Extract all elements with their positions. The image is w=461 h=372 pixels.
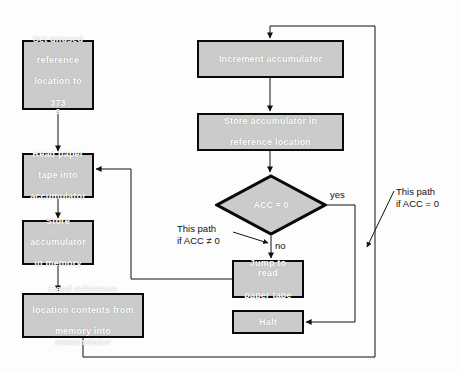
node-increment-accumulator[interactable]: Increment accumulator <box>197 40 344 78</box>
node-set-reference-text: Set unusedreferencelocation to3738 <box>27 34 90 116</box>
node-jump-text: Jump to readpaper tape <box>234 258 302 300</box>
node-store-memory-text: Storeaccumulatorin memory <box>24 216 92 269</box>
node-read-paper-tape-text: Read papertape intoaccumulator <box>24 149 92 202</box>
node-halt-text: Halt <box>256 317 280 328</box>
leader-equal <box>367 191 394 247</box>
node-store-accumulator-reference[interactable]: Store accumulator inreference location <box>197 113 344 151</box>
annotation-path-if-acc-equal-zero: This path if ACC = 0 <box>396 186 439 210</box>
node-store-reference-text: Store accumulator inreference location <box>218 116 324 148</box>
decision-label: ACC = 0 <box>215 174 327 236</box>
node-increment-text: Increment accumulator <box>216 54 325 65</box>
octal-subscript: 8 <box>30 108 87 116</box>
node-decision-acc-equals-zero[interactable]: ACC = 0 <box>215 174 327 236</box>
node-read-reference-text: Read referencelocation contents frommemo… <box>24 284 142 348</box>
node-jump-to-read-paper-tape[interactable]: Jump to readpaper tape <box>232 260 304 298</box>
annotation-path-if-acc-not-equal-zero: This path if ACC ≠ 0 <box>177 223 220 247</box>
flowchart-canvas: Set unusedreferencelocation to3738 Read … <box>0 0 461 372</box>
edge-label-yes: yes <box>330 189 345 200</box>
edge-label-no: no <box>275 240 286 251</box>
node-read-reference-location[interactable]: Read referencelocation contents frommemo… <box>22 293 144 338</box>
node-halt[interactable]: Halt <box>232 310 304 334</box>
node-set-reference-location[interactable]: Set unusedreferencelocation to3738 <box>22 40 94 110</box>
node-read-paper-tape[interactable]: Read papertape intoaccumulator <box>22 153 94 198</box>
node-store-accumulator-memory[interactable]: Storeaccumulatorin memory <box>22 220 94 265</box>
